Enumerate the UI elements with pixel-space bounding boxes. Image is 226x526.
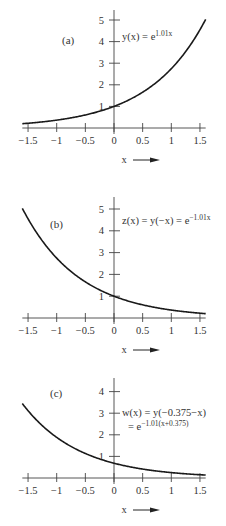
- x-tick-label: 0: [111, 325, 116, 336]
- equation-label: y(x) = e1.01x: [122, 29, 172, 43]
- y-tick-label: 3: [99, 408, 104, 419]
- x-tick-label: 0: [111, 485, 116, 496]
- x-tick-label: 1.5: [193, 485, 206, 496]
- chart-panel-c: −1.5−1−0.500.511.51234(c)w(x) = y(−0.375…: [19, 378, 207, 515]
- x-tick-label: 1: [169, 485, 174, 496]
- panel-label: (b): [50, 218, 63, 231]
- y-tick-label: 3: [99, 58, 104, 69]
- y-tick-label: 2: [99, 429, 104, 440]
- y-tick-label: 5: [99, 204, 104, 215]
- x-tick-label: −1.5: [19, 485, 38, 496]
- x-tick-label: −1.5: [19, 325, 38, 336]
- equation-label: w(x) = y(−0.375−x): [122, 407, 206, 419]
- x-tick-label: 1: [169, 135, 174, 146]
- x-axis-label: x: [121, 344, 127, 355]
- panel-label: (c): [50, 387, 63, 400]
- x-tick-label: −0.5: [76, 325, 95, 336]
- arrow-head-icon: [150, 508, 160, 513]
- x-tick-label: −0.5: [76, 485, 95, 496]
- panel-label: (a): [62, 34, 75, 47]
- y-tick-label: 2: [99, 269, 104, 280]
- y-tick-label: 5: [99, 15, 104, 26]
- x-tick-label: −1: [51, 485, 62, 496]
- y-tick-label: 4: [99, 225, 105, 236]
- figure: −1.5−1−0.500.511.512345(a)y(x) = e1.01xx…: [0, 0, 226, 526]
- chart-panel-b: −1.5−1−0.500.511.512345(b)z(x) = y(−x) =…: [19, 197, 211, 355]
- y-tick-label: 4: [99, 386, 105, 397]
- x-tick-label: −0.5: [76, 135, 95, 146]
- x-tick-label: 1.5: [193, 135, 206, 146]
- x-tick-label: 0.5: [136, 485, 149, 496]
- x-tick-label: 0.5: [136, 135, 149, 146]
- y-tick-label: 4: [99, 36, 105, 47]
- x-axis-label: x: [121, 154, 127, 165]
- x-tick-label: −1.5: [19, 135, 38, 146]
- equation-label-line2: = e−1.01(x+0.375): [128, 419, 189, 432]
- x-tick-label: 1: [169, 325, 174, 336]
- arrow-head-icon: [150, 158, 160, 163]
- chart-panel-a: −1.5−1−0.500.511.512345(a)y(x) = e1.01xx: [19, 10, 207, 165]
- x-tick-label: 1.5: [193, 325, 206, 336]
- equation-label: z(x) = y(−x) = e−1.01x: [122, 213, 211, 227]
- x-tick-label: −1: [51, 135, 62, 146]
- y-tick-label: 2: [99, 79, 104, 90]
- y-tick-label: 3: [99, 247, 104, 258]
- x-axis-label: x: [121, 504, 127, 515]
- x-tick-label: 0: [111, 135, 116, 146]
- x-tick-label: −1: [51, 325, 62, 336]
- x-tick-label: 0.5: [136, 325, 149, 336]
- arrow-head-icon: [150, 348, 160, 353]
